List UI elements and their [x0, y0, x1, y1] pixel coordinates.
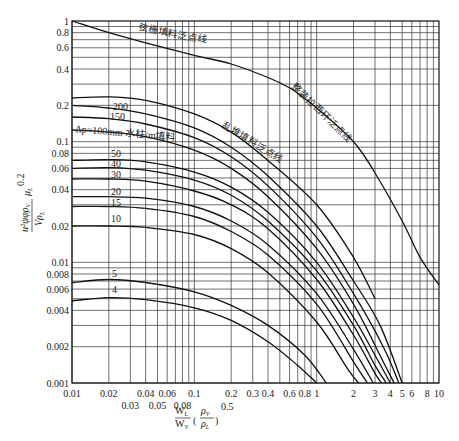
x-tick-label: 6 — [409, 388, 414, 399]
y-tick-label: 0.006 — [47, 284, 70, 295]
curve-Δp=5 — [72, 280, 326, 384]
x-tick-label: 0.2 — [225, 388, 238, 399]
x-tick-label: 0.3 — [246, 388, 259, 399]
curve-整装拉西环泛点线 — [298, 94, 439, 285]
label-dp-4: 4 — [112, 284, 117, 295]
x-tick-label: 0.02 — [100, 388, 118, 399]
x-tick-label: 0.8 — [299, 388, 312, 399]
svg-text:ρV: ρV — [200, 405, 211, 417]
x-tick-label: 0.01 — [63, 388, 81, 399]
y-tick-label: 0.01 — [52, 257, 70, 268]
x-tick-label: 0.06 — [158, 388, 176, 399]
y-tick-label: 0.1 — [57, 136, 70, 147]
svg-text:WV: WV — [175, 418, 189, 430]
x-axis-label: WL WV ( ρV ρL ) 0.5 — [175, 401, 234, 430]
svg-text:0.2: 0.2 — [15, 174, 26, 187]
y-tick-labels: 10.80.60.40.20.10.080.060.040.020.010.00… — [47, 16, 70, 389]
y-tick-label: 0.2 — [57, 100, 70, 111]
svg-text:μL: μL — [21, 187, 33, 197]
x-tick-label: 0.04 — [137, 388, 155, 399]
x-tick-label: 0.4 — [262, 388, 275, 399]
curve-Δp=20 — [72, 197, 373, 383]
svg-text:0.5: 0.5 — [221, 401, 234, 412]
y-tick-label: 0.8 — [57, 27, 70, 38]
y-tick-label: 0.004 — [47, 305, 70, 316]
svg-text:(: ( — [193, 415, 197, 427]
x-tick-label: 0.05 — [149, 400, 167, 411]
x-tick-label: 0.1 — [188, 388, 201, 399]
curve-Δp=10 — [72, 226, 359, 383]
y-tick-label: 0.02 — [52, 221, 70, 232]
x-tick-label: 4 — [388, 388, 393, 399]
y-axis-label: u²ψφρV VρL μL 0.2 — [15, 174, 45, 233]
label-dp-5: 5 — [112, 268, 117, 279]
x-tick-labels: 0.010.020.030.040.050.060.080.10.20.30.4… — [63, 388, 444, 411]
label-dp-150: 150 — [110, 111, 125, 122]
curves — [72, 21, 439, 383]
svg-text:VρL: VρL — [33, 211, 45, 226]
flooding-correlation-chart: 10.80.60.40.20.10.080.060.040.020.010.00… — [0, 0, 459, 441]
x-tick-label: 2 — [351, 388, 356, 399]
x-tick-label: 0.03 — [122, 400, 140, 411]
label-dp-10: 10 — [111, 213, 121, 224]
label-grid-packing-flood-line: 弦栅填料泛点线 — [138, 21, 209, 45]
label-dp-40: 40 — [111, 158, 121, 169]
label-dp-30: 30 — [111, 169, 121, 180]
y-tick-label: 0.002 — [47, 341, 70, 352]
svg-text:): ) — [215, 415, 218, 427]
svg-text:Δp=100mm 水柱/m填料: Δp=100mm 水柱/m填料 — [75, 122, 176, 143]
x-tick-label: 8 — [425, 388, 430, 399]
svg-text:u²ψφρV: u²ψφρV — [19, 202, 31, 232]
y-tick-label: 0.4 — [57, 64, 70, 75]
y-tick-label: 0.6 — [57, 42, 70, 53]
y-tick-label: 1 — [64, 16, 69, 27]
label-dp-100: Δp=100mm 水柱/m填料 — [75, 122, 176, 143]
x-tick-label: 5 — [400, 388, 405, 399]
y-tick-label: 0.06 — [52, 163, 70, 174]
y-tick-label: 0.08 — [52, 148, 70, 159]
label-stacked-raschig-flood-line: 整装拉西环泛点线 — [290, 81, 355, 144]
y-tick-label: 0.008 — [47, 269, 70, 280]
y-tick-label: 0.04 — [52, 184, 70, 195]
svg-text:ρL: ρL — [200, 418, 210, 430]
y-tick-label: 0.001 — [47, 378, 70, 389]
label-dp-15: 15 — [111, 197, 121, 208]
x-tick-label: 1 — [314, 388, 319, 399]
x-tick-label: 0.6 — [283, 388, 296, 399]
x-tick-label: 10 — [434, 388, 444, 399]
label-dp-20: 20 — [111, 186, 121, 197]
x-tick-label: 3 — [373, 388, 378, 399]
